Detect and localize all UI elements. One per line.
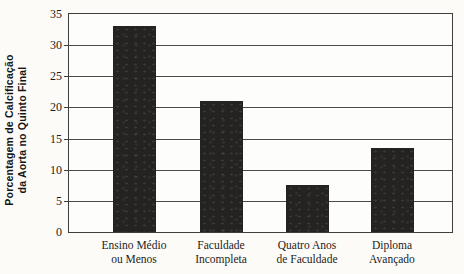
y-tick-mark-15	[64, 139, 68, 140]
y-axis-title-line2: da Aorta no Quinto Final	[16, 10, 29, 250]
x-category-label-line: Diploma	[337, 239, 447, 253]
y-tick-label-5: 5	[32, 193, 62, 209]
x-category-label-4: DiplomaAvançado	[337, 239, 447, 266]
y-axis-title-line1: Porcentagem de Calcificação	[3, 10, 16, 250]
plot-area	[68, 13, 453, 233]
y-tick-label-35: 35	[32, 6, 62, 22]
y-tick-mark-25	[64, 76, 68, 77]
y-tick-label-10: 10	[32, 162, 62, 178]
bar-1	[113, 26, 156, 232]
x-category-label-line: Avançado	[337, 253, 447, 267]
bar-4	[371, 148, 414, 232]
y-tick-mark-30	[64, 45, 68, 46]
y-axis-title: Porcentagem de Calcificação da Aorta no …	[3, 10, 29, 250]
y-tick-label-25: 25	[32, 68, 62, 84]
y-tick-label-0: 0	[32, 224, 62, 240]
y-tick-mark-10	[64, 170, 68, 171]
bar-3	[286, 185, 329, 232]
y-tick-label-15: 15	[32, 131, 62, 147]
y-tick-mark-5	[64, 201, 68, 202]
chart-figure: Porcentagem de Calcificação da Aorta no …	[0, 0, 464, 274]
y-tick-label-30: 30	[32, 37, 62, 53]
y-tick-label-20: 20	[32, 99, 62, 115]
bar-2	[200, 101, 243, 232]
y-tick-mark-20	[64, 107, 68, 108]
